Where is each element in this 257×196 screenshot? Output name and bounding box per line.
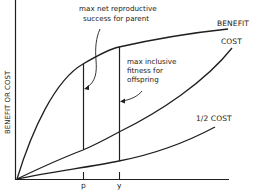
tick-label-p: p [81, 182, 86, 190]
cost-label: COST [221, 38, 242, 46]
benefit-curve [17, 29, 228, 179]
offspring-annotation-line1: max inclusive [127, 58, 176, 66]
offspring-annotation-arrow [123, 91, 142, 101]
half-cost-curve [17, 127, 215, 179]
parent-arrowhead-icon [84, 85, 89, 90]
offspring-annotation-line3: offspring [127, 76, 159, 84]
tick-label-y: y [117, 182, 121, 190]
half-cost-label: 1/2 COST [196, 115, 232, 123]
parent-annotation-line2: success for parent [83, 15, 149, 23]
y-axis-label: BENEFIT OR COST [4, 74, 12, 134]
offspring-annotation-line2: fitness for [127, 67, 163, 75]
offspring-arrowhead-icon [120, 99, 125, 104]
parent-annotation-line1: max net reproductive [79, 5, 157, 13]
benefit-cost-diagram [0, 0, 257, 196]
benefit-label: BENEFIT [217, 20, 249, 28]
